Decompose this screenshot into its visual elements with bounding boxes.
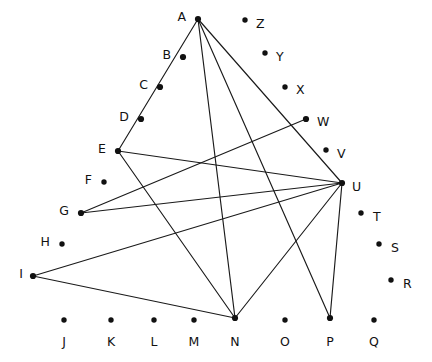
node-dot-e[interactable] xyxy=(115,148,121,154)
node-label-f: F xyxy=(85,172,92,187)
node-label-a: A xyxy=(177,9,186,24)
node-dot-b[interactable] xyxy=(180,54,186,60)
edge-layer xyxy=(33,19,342,318)
node-label-i: I xyxy=(19,266,23,281)
node-label-v: V xyxy=(337,146,346,161)
node-dot-y[interactable] xyxy=(262,50,267,55)
node-dot-h[interactable] xyxy=(59,241,64,246)
node-label-s: S xyxy=(391,240,399,255)
node-dot-r[interactable] xyxy=(388,277,393,282)
node-label-u: U xyxy=(352,179,361,194)
edge-u-n xyxy=(235,183,342,318)
node-dot-z[interactable] xyxy=(242,17,247,22)
node-label-z: Z xyxy=(256,16,265,31)
node-label-m: M xyxy=(189,334,200,349)
edge-g-u xyxy=(81,183,342,213)
edge-a-p xyxy=(198,19,330,318)
node-dot-i[interactable] xyxy=(30,273,36,279)
node-dot-k[interactable] xyxy=(108,317,113,322)
node-label-n: N xyxy=(230,334,239,349)
edge-i-u xyxy=(33,183,342,276)
node-label-g: G xyxy=(59,203,69,218)
node-label-o: O xyxy=(280,334,290,349)
node-dot-n[interactable] xyxy=(232,315,238,321)
node-dot-f[interactable] xyxy=(101,179,106,184)
node-label-w: W xyxy=(317,114,329,129)
node-label-c: C xyxy=(139,77,148,92)
node-layer xyxy=(30,16,394,323)
node-label-x: X xyxy=(296,82,305,97)
node-label-h: H xyxy=(41,234,50,249)
node-dot-d[interactable] xyxy=(138,116,144,122)
edge-a-u xyxy=(198,19,342,183)
node-dot-w[interactable] xyxy=(303,116,309,122)
edge-g-w xyxy=(81,119,306,213)
node-label-y: Y xyxy=(275,49,284,64)
node-label-p: P xyxy=(326,334,334,349)
edge-i-n xyxy=(33,276,235,318)
node-dot-g[interactable] xyxy=(78,210,84,216)
node-dot-v[interactable] xyxy=(323,147,328,152)
point-line-diagram: ABCDEFGHIJKLMNOPQRSTUVWXYZ xyxy=(0,0,432,362)
edge-e-u xyxy=(118,151,342,183)
node-dot-p[interactable] xyxy=(327,315,333,321)
node-label-d: D xyxy=(119,109,129,124)
node-dot-j[interactable] xyxy=(61,317,66,322)
node-label-e: E xyxy=(98,141,106,156)
node-label-r: R xyxy=(403,276,412,291)
node-dot-s[interactable] xyxy=(376,241,381,246)
node-dot-c[interactable] xyxy=(157,84,163,90)
node-dot-x[interactable] xyxy=(282,84,287,89)
diagram-canvas: ABCDEFGHIJKLMNOPQRSTUVWXYZ xyxy=(0,0,432,362)
node-dot-t[interactable] xyxy=(358,210,363,215)
node-dot-l[interactable] xyxy=(151,317,156,322)
node-dot-q[interactable] xyxy=(371,317,376,322)
node-label-t: T xyxy=(372,209,381,224)
edge-u-p xyxy=(330,183,342,318)
node-label-b: B xyxy=(162,47,171,62)
node-label-l: L xyxy=(151,334,158,349)
node-dot-u[interactable] xyxy=(339,180,345,186)
node-label-j: J xyxy=(61,334,66,349)
node-label-q: Q xyxy=(369,334,379,349)
node-dot-o[interactable] xyxy=(282,317,287,322)
node-dot-a[interactable] xyxy=(195,16,201,22)
node-dot-m[interactable] xyxy=(191,317,196,322)
node-label-k: K xyxy=(107,334,116,349)
